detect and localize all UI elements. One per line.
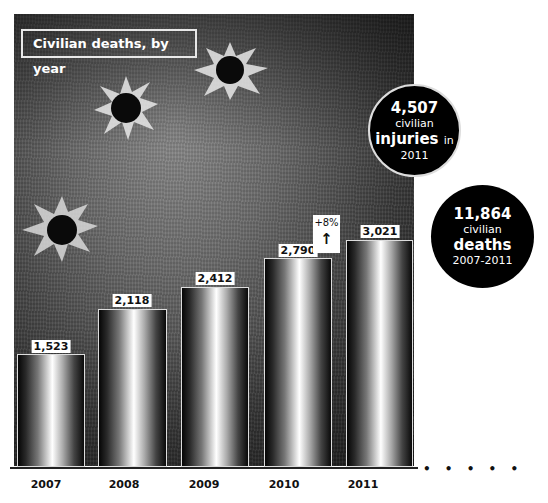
chart-title: Civilian deaths, by year [21, 29, 197, 58]
deaths-line3: 2007-2011 [453, 254, 513, 268]
bar-2011 [346, 240, 413, 467]
x-label-2008: 2008 [109, 478, 140, 491]
bar-2008 [98, 309, 167, 467]
deaths-bold: deaths [454, 237, 512, 254]
injuries-suffix: in [444, 134, 454, 147]
bar-2009 [181, 287, 249, 467]
injuries-number: 4,507 [391, 99, 438, 117]
change-percent: +8% [313, 215, 340, 231]
arrow-up-icon: ↑ [313, 231, 340, 247]
bullet-hole-icon [20, 192, 100, 264]
injuries-line1: civilian [395, 117, 434, 131]
x-label-2011: 2011 [348, 478, 379, 491]
bar-2007 [17, 354, 85, 467]
injuries-line2: injuries in [375, 131, 454, 149]
value-label-2010: 2,790 [279, 244, 318, 257]
bullet-hole-icon [190, 40, 270, 102]
value-label-2007: 1,523 [32, 340, 71, 353]
bar-2010 [264, 258, 332, 467]
axis-continuation-dots: • • • • • [423, 462, 523, 476]
value-label-2009: 2,412 [196, 272, 235, 285]
deaths-line1: civilian [463, 223, 502, 237]
deaths-number: 11,864 [454, 205, 512, 223]
bullet-hole-icon [90, 72, 162, 144]
x-label-2009: 2009 [189, 478, 220, 491]
deaths-callout: 11,864 civilian deaths 2007-2011 [431, 185, 534, 288]
x-label-2007: 2007 [31, 478, 62, 491]
x-label-2010: 2010 [269, 478, 300, 491]
injuries-bold: injuries [375, 130, 438, 148]
injuries-callout: 4,507 civilian injuries in 2011 [368, 84, 461, 177]
injuries-line3: 2011 [401, 149, 429, 163]
value-label-2011: 3,021 [361, 225, 400, 238]
x-axis [10, 467, 418, 469]
change-annotation: +8% ↑ [313, 215, 340, 253]
value-label-2008: 2,118 [113, 294, 152, 307]
